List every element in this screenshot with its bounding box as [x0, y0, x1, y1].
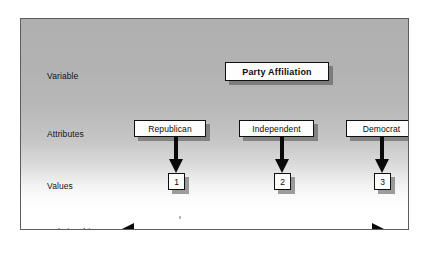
arrow-shaft: [174, 137, 178, 161]
variable-box: Party Affiliation: [225, 62, 329, 81]
row-label-values: Values: [47, 181, 73, 191]
arrow-head: [275, 159, 289, 173]
diagram-panel: Variable Attributes Values Relationship …: [20, 18, 409, 230]
scan-artifact: [179, 216, 181, 219]
arrow-line: [131, 229, 375, 231]
attribute-box-democrat: Democrat: [346, 120, 409, 137]
down-arrow-icon-democrat: [375, 137, 389, 173]
arrow-shaft: [280, 137, 284, 161]
down-arrow-icon-independent: [275, 137, 289, 173]
attribute-box-independent: Independent: [239, 120, 314, 137]
value-box-3: 3: [374, 173, 391, 190]
arrow-shaft: [380, 137, 384, 161]
arrow-head: [169, 159, 183, 173]
arrow-head-right: [372, 223, 386, 230]
attribute-box-republican: Republican: [134, 120, 206, 137]
value-box-1: 1: [168, 173, 185, 190]
row-label-relationship: Relationship: [47, 227, 95, 230]
arrow-head: [375, 159, 389, 173]
down-arrow-icon-republican: [169, 137, 183, 173]
row-label-variable: Variable: [47, 71, 78, 81]
double-headed-arrow-icon: [120, 223, 386, 230]
row-label-attributes: Attributes: [47, 129, 84, 139]
diagram-page: Variable Attributes Values Relationship …: [0, 0, 428, 253]
value-box-2: 2: [274, 173, 291, 190]
